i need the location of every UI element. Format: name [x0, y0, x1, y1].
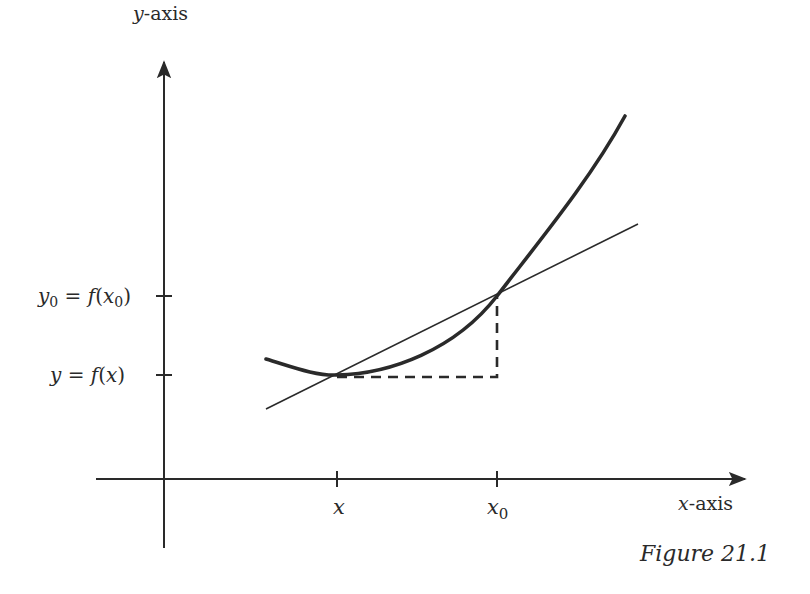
x-tick-label-x: x: [333, 495, 345, 519]
secant-diagram: y-axis x-axis x x0 y0 = f(x0) y = f(x) F…: [0, 0, 810, 594]
dashed-increment: [337, 296, 497, 377]
x-tick-label-x0: x0: [487, 495, 508, 523]
y-axis-label: y-axis: [132, 2, 188, 24]
x-axis-label: x-axis: [678, 492, 733, 514]
secant-line: [266, 224, 638, 409]
figure-caption: Figure 21.1: [639, 541, 770, 566]
function-curve: [266, 116, 625, 375]
y-tick-label-y: y = f(x): [49, 363, 125, 387]
y-tick-label-y0: y0 = f(x0): [37, 284, 131, 310]
